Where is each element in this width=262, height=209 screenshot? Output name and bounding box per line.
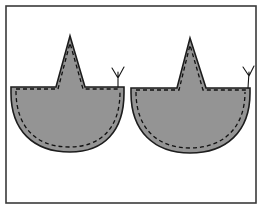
sewing-diagram: [0, 0, 262, 209]
illustration-canvas: [0, 0, 262, 209]
